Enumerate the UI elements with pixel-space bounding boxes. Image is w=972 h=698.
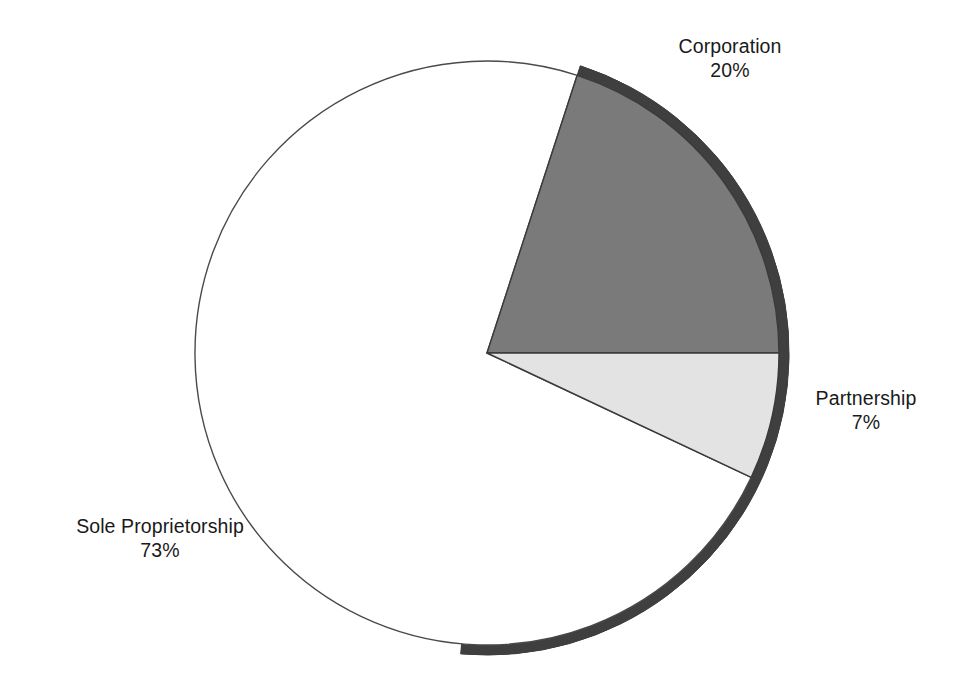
pie-label-corporation-name: Corporation bbox=[594, 34, 866, 58]
pie-chart-graphic bbox=[0, 0, 972, 698]
pie-label-partnership-name: Partnership bbox=[762, 386, 970, 410]
pie-label-corporation-percent: 20% bbox=[594, 58, 866, 82]
pie-label-sole-proprietorship: Sole Proprietorship 73% bbox=[24, 514, 296, 562]
pie-label-corporation: Corporation 20% bbox=[594, 34, 866, 82]
pie-label-sole-proprietorship-percent: 73% bbox=[24, 538, 296, 562]
pie-label-sole-proprietorship-name: Sole Proprietorship bbox=[24, 514, 296, 538]
pie-label-partnership-percent: 7% bbox=[762, 410, 970, 434]
pie-chart-figure: Corporation 20% Partnership 7% Sole Prop… bbox=[0, 0, 972, 698]
pie-label-partnership: Partnership 7% bbox=[762, 386, 970, 434]
